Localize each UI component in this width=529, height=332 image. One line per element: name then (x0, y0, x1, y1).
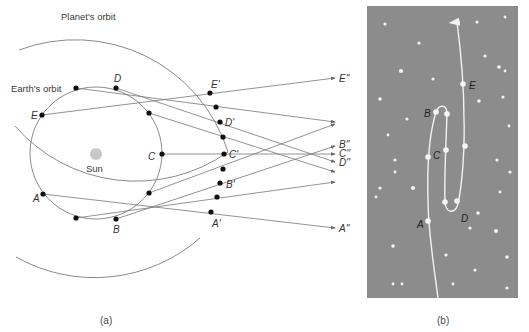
earth-orbit-label: Earth's orbit (11, 83, 62, 94)
planet-orbit-bottom (16, 238, 200, 278)
label-A-prime: A' (211, 218, 222, 229)
label-C: C (148, 151, 156, 162)
retrograde-motion-figure: Sun Planet's orbit Earth's orbit (0, 0, 529, 332)
path-label-A: A (416, 219, 424, 230)
label-E-double-prime: E'' (339, 73, 351, 84)
label-D-prime: D' (225, 117, 235, 128)
label-D: D (114, 73, 121, 84)
caption-b: (b) (437, 315, 449, 326)
path-label-D: D (461, 213, 468, 224)
label-E: E (31, 110, 38, 121)
sky-background (367, 6, 518, 298)
panel-b: E B C D A (b) (367, 6, 518, 326)
path-label-E: E (469, 80, 476, 91)
sun-label: Sun (86, 163, 103, 174)
label-A: A (32, 193, 40, 204)
planet-orbit (15, 40, 228, 181)
label-B-prime: B' (226, 179, 236, 190)
label-D-double-prime: D'' (339, 157, 351, 168)
path-label-C: C (433, 150, 441, 161)
caption-a: (a) (100, 315, 112, 326)
planet-orbit-label: Planet's orbit (61, 11, 116, 22)
label-E-prime: E' (211, 79, 221, 90)
panel-a: Sun Planet's orbit Earth's orbit (11, 11, 351, 326)
path-label-B: B (424, 108, 431, 119)
sun-icon (90, 148, 102, 160)
planet-position-dots (207, 90, 226, 214)
label-A-double-prime: A'' (338, 223, 351, 234)
label-C-prime: C' (229, 149, 239, 160)
sight-lines (42, 78, 335, 228)
label-B: B (113, 224, 120, 235)
